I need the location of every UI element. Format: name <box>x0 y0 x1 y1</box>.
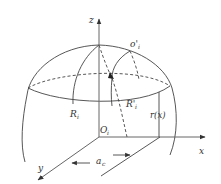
x-axis-label: x <box>199 146 204 156</box>
radius-right-label: R' <box>125 99 135 109</box>
radius-left-subscript: i <box>77 113 79 120</box>
offset-label: a <box>96 156 101 166</box>
z-axis-label: z <box>88 15 94 25</box>
radius-dashed-line <box>99 45 127 137</box>
outer-sphere-left-arc <box>22 45 99 162</box>
y-axis-label: y <box>37 163 44 173</box>
r-of-x-label: r(x) <box>150 110 166 120</box>
top-point-label: o' <box>130 39 138 49</box>
offset-subscript: c <box>102 160 106 167</box>
meridian-right-arc <box>111 51 130 106</box>
radius-right-subscript: i <box>135 103 137 110</box>
top-point-subscript: i <box>138 43 140 50</box>
parallel-offset-line <box>101 137 160 176</box>
sphere-cap-diagram: z x y O i o' i R i R' i r(x) a c <box>0 0 221 184</box>
outer-sphere-right-arc <box>99 45 176 155</box>
origin-subscript: i <box>107 129 109 136</box>
radius-left-label: R <box>69 109 77 119</box>
y-axis <box>38 137 99 180</box>
